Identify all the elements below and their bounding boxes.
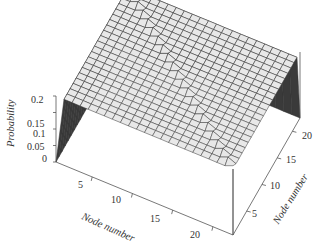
z-tick-0-1: 0.1 bbox=[33, 129, 46, 139]
y-tick-15: 15 bbox=[286, 155, 296, 165]
z-tick-0-2: 0.2 bbox=[31, 95, 44, 105]
x-tick-10: 10 bbox=[111, 195, 121, 205]
z-axis-title: Probability bbox=[6, 100, 17, 147]
y-tick-10: 10 bbox=[270, 181, 280, 191]
x-tick-20: 20 bbox=[190, 230, 200, 240]
x-tick-15: 15 bbox=[150, 214, 160, 224]
z-tick-0: 0 bbox=[42, 154, 47, 164]
y-tick-20: 20 bbox=[302, 131, 312, 141]
surface-mesh bbox=[56, 0, 300, 166]
x-tick-5: 5 bbox=[78, 180, 83, 190]
y-tick-5: 5 bbox=[252, 209, 257, 219]
z-tick-0-05: 0.05 bbox=[27, 142, 45, 152]
